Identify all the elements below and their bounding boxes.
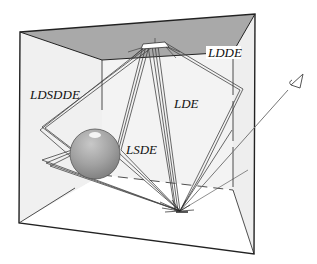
- label-lde: LDE: [173, 96, 199, 111]
- light-path-diagram: LDSDDE LDDE LDE LSDE: [0, 0, 317, 264]
- label-ldsdde: LDSDDE: [29, 87, 80, 102]
- back-wall: [102, 52, 233, 190]
- label-ldde: LDDE: [207, 45, 242, 60]
- specular-sphere: [70, 129, 120, 179]
- eye-icon: [290, 74, 303, 88]
- label-lsde: LSDE: [125, 142, 157, 157]
